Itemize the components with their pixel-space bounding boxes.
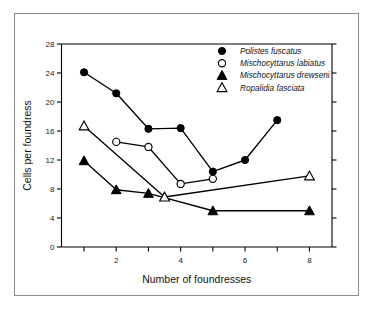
legend-group: Polistes fuscatusMischocyttarus labiatus… (217, 47, 330, 93)
data-point-filled-triangle (79, 156, 89, 165)
data-point-open-triangle (79, 121, 89, 130)
x-tick-label: 4 (178, 256, 183, 265)
y-tick-label: 28 (46, 40, 55, 49)
data-point-open-triangle (217, 83, 227, 92)
chart-plot-area: 04812162024282468 Polistes fuscatusMisch… (0, 0, 373, 310)
y-tick-label: 8 (50, 185, 55, 194)
series-line (116, 142, 213, 184)
data-point-filled-circle (177, 125, 184, 132)
data-point-open-circle (177, 180, 184, 187)
data-point-open-circle (113, 138, 120, 145)
legend-label: Mischocyttarus labiatus (240, 59, 325, 68)
data-point-filled-circle (209, 168, 216, 175)
y-tick-label: 4 (50, 214, 55, 223)
x-axis-title: Number of foundresses (142, 273, 251, 285)
data-point-filled-circle (80, 69, 87, 76)
y-axis-title: Cells per foundress (21, 100, 33, 190)
data-point-filled-circle (113, 90, 120, 97)
legend-label: Polistes fuscatus (240, 47, 301, 56)
data-point-open-triangle (305, 171, 315, 180)
x-tick-label: 2 (114, 256, 119, 265)
data-point-open-circle (209, 175, 216, 182)
data-point-open-circle (218, 60, 225, 67)
data-point-filled-triangle (217, 71, 227, 80)
data-point-filled-circle (274, 117, 281, 124)
series-1 (113, 138, 217, 187)
series-2 (79, 156, 314, 215)
data-point-filled-circle (241, 156, 248, 163)
legend-label: Ropalidia fasciata (240, 84, 305, 93)
y-tick-label: 16 (46, 127, 55, 136)
y-tick-label: 0 (50, 243, 55, 252)
data-point-filled-circle (145, 125, 152, 132)
x-tick-label: 8 (307, 256, 312, 265)
y-tick-label: 20 (46, 98, 55, 107)
figure-container: 04812162024282468 Polistes fuscatusMisch… (0, 0, 373, 310)
series-line (84, 126, 309, 197)
data-point-filled-circle (218, 47, 225, 54)
legend-label: Mischocyttarus drewseni (240, 71, 330, 80)
x-tick-label: 6 (243, 256, 248, 265)
y-tick-label: 12 (46, 156, 55, 165)
series-line (84, 161, 309, 211)
y-tick-label: 24 (46, 69, 55, 78)
data-point-open-circle (145, 143, 152, 150)
